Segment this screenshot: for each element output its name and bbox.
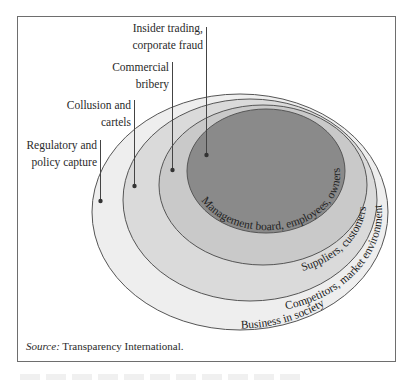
source-label: Source: xyxy=(26,340,60,352)
dot-commercial xyxy=(170,168,174,172)
callout-line: bribery xyxy=(70,76,169,93)
dot-regulatory xyxy=(98,199,102,203)
source-text: Transparency International. xyxy=(60,340,184,352)
dot-insider xyxy=(204,153,208,157)
callout-line: Insider trading, xyxy=(100,20,203,37)
callout-line: Commercial xyxy=(70,59,169,76)
source-note: Source: Transparency International. xyxy=(26,340,184,352)
cut-off-text-line xyxy=(20,374,300,380)
callout-commercial-bribery: Commercial bribery xyxy=(70,59,169,93)
callout-regulatory-capture: Regulatory and policy capture xyxy=(0,137,97,171)
concentric-ellipse-diagram: Business in society Competitors, market … xyxy=(0,0,413,380)
ring-management xyxy=(187,109,345,233)
callout-line: corporate fraud xyxy=(100,37,203,54)
callout-line: Regulatory and xyxy=(0,137,97,154)
callout-line: cartels xyxy=(30,114,131,131)
callout-line: Collusion and xyxy=(30,97,131,114)
callout-collusion: Collusion and cartels xyxy=(30,97,131,131)
callout-line: policy capture xyxy=(0,154,97,171)
callout-insider-trading: Insider trading, corporate fraud xyxy=(100,20,203,54)
dot-collusion xyxy=(132,184,136,188)
